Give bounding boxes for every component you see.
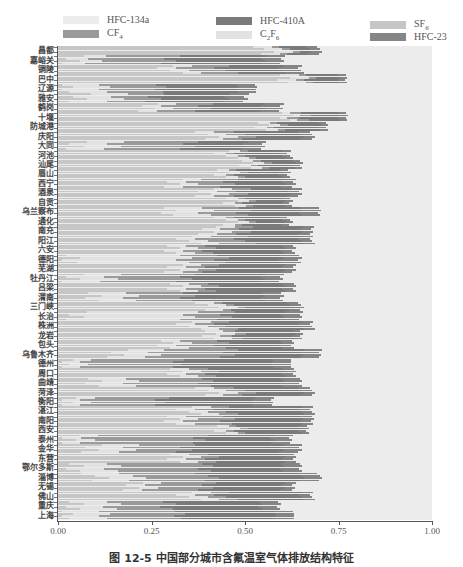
figure-caption: 图 12-5 中国部分城市含氟温室气体排放结构特征 <box>0 549 463 565</box>
legend-label: HFC-410A <box>260 15 305 26</box>
y-tick-label: 六安 <box>38 245 54 254</box>
x-tick-label: 0.00 <box>50 526 66 536</box>
y-tick-mark <box>54 241 57 242</box>
legend-swatch <box>370 33 406 41</box>
y-tick-label: 大同 <box>38 141 54 150</box>
legend-item: C2F6 <box>216 28 279 42</box>
y-tick-mark <box>54 275 57 276</box>
x-tick-label: 0.75 <box>331 526 347 536</box>
y-tick-mark <box>54 488 57 489</box>
y-tick-mark <box>54 199 57 200</box>
y-tick-mark <box>54 66 57 67</box>
y-tick-mark <box>54 312 57 313</box>
y-tick-mark <box>54 322 57 323</box>
y-tick-label: 辽源 <box>38 84 54 93</box>
bar-segment-c2f6 <box>69 518 106 520</box>
y-tick-mark <box>54 251 57 252</box>
legend-swatch <box>216 17 252 25</box>
y-tick-mark <box>54 469 57 470</box>
y-tick-mark <box>54 384 57 385</box>
y-tick-mark <box>54 497 57 498</box>
y-tick-mark <box>54 232 57 233</box>
y-tick-mark <box>54 194 57 195</box>
y-tick-mark <box>54 493 57 494</box>
y-tick-mark <box>54 123 57 124</box>
bar-segment-cf4 <box>107 518 182 520</box>
y-tick-mark <box>54 180 57 181</box>
x-tick-mark <box>152 521 153 525</box>
legend-item: HFC-23 <box>370 31 447 42</box>
y-tick-mark <box>54 170 57 171</box>
y-tick-mark <box>54 47 57 48</box>
y-tick-mark <box>54 90 57 91</box>
y-tick-mark <box>54 393 57 394</box>
y-tick-mark <box>54 450 57 451</box>
y-tick-mark <box>54 365 57 366</box>
y-tick-mark <box>54 436 57 437</box>
x-tick-mark <box>245 521 246 525</box>
x-tick-label: 0.50 <box>237 526 253 536</box>
y-tick-mark <box>54 516 57 517</box>
legend-label: CF4 <box>107 27 123 41</box>
y-tick-mark <box>54 56 57 57</box>
y-tick-mark <box>54 128 57 129</box>
y-tick-mark <box>54 256 57 257</box>
y-tick-mark <box>54 317 57 318</box>
y-tick-mark <box>54 431 57 432</box>
y-tick-mark <box>54 298 57 299</box>
y-tick-mark <box>54 483 57 484</box>
y-tick-label: 包头 <box>38 340 54 349</box>
y-tick-label: 吕梁 <box>38 283 54 292</box>
y-tick-mark <box>54 303 57 304</box>
y-tick-label: 曲靖 <box>38 378 54 387</box>
y-tick-mark <box>54 52 57 53</box>
legend-swatch <box>63 16 99 24</box>
y-tick-mark <box>54 474 57 475</box>
y-tick-mark <box>54 137 57 138</box>
bar-segment-hfc-134a <box>294 518 432 520</box>
y-tick-mark <box>54 218 57 219</box>
y-tick-mark <box>54 308 57 309</box>
y-tick-mark <box>54 412 57 413</box>
y-tick-mark <box>54 336 57 337</box>
y-tick-mark <box>54 184 57 185</box>
y-tick-label: 鹤岗 <box>38 103 54 112</box>
y-axis-line <box>57 46 58 522</box>
x-tick-mark <box>58 521 59 525</box>
y-tick-mark <box>54 156 57 157</box>
legend-label: HFC-134a <box>107 14 149 25</box>
legend-swatch <box>370 21 406 29</box>
y-tick-mark <box>54 355 57 356</box>
y-tick-mark <box>54 507 57 508</box>
chart-legend: HFC-134aCF4HFC-410AC2F6SF6HFC-23 <box>0 0 463 46</box>
y-tick-mark <box>54 445 57 446</box>
y-tick-label: 铜陵 <box>38 65 54 74</box>
y-tick-mark <box>54 341 57 342</box>
y-tick-mark <box>54 279 57 280</box>
legend-swatch <box>63 30 99 38</box>
plot-area <box>58 46 432 520</box>
y-tick-label: 芜湖 <box>38 264 54 273</box>
y-tick-mark <box>54 289 57 290</box>
legend-label: HFC-23 <box>414 31 447 42</box>
legend-label: SF6 <box>414 18 429 32</box>
y-tick-mark <box>54 398 57 399</box>
y-tick-mark <box>54 99 57 100</box>
y-tick-mark <box>54 161 57 162</box>
x-tick-label: 1.00 <box>424 526 440 536</box>
y-tick-label: 重庆 <box>38 501 54 510</box>
y-tick-mark <box>54 265 57 266</box>
y-tick-mark <box>54 407 57 408</box>
y-tick-mark <box>54 502 57 503</box>
y-tick-mark <box>54 346 57 347</box>
y-tick-mark <box>54 455 57 456</box>
y-tick-mark <box>54 459 57 460</box>
bar-segment-hfc-410a <box>181 518 275 520</box>
y-tick-label: 上海 <box>38 511 54 520</box>
y-tick-mark <box>54 426 57 427</box>
y-tick-mark <box>54 379 57 380</box>
y-tick-mark <box>54 440 57 441</box>
y-tick-mark <box>54 222 57 223</box>
y-tick-mark <box>54 147 57 148</box>
y-tick-label: 无锡 <box>38 482 54 491</box>
